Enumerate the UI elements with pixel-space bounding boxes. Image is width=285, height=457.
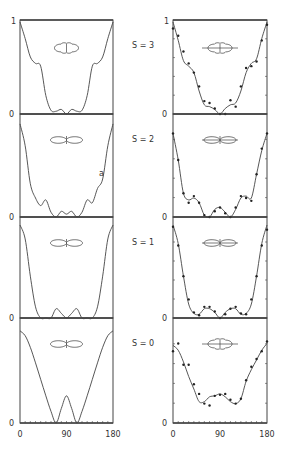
data-point [172, 27, 174, 29]
data-point [193, 383, 195, 385]
data-point [219, 394, 221, 396]
data-point [214, 310, 216, 312]
data-point [172, 350, 174, 352]
data-point [234, 306, 236, 308]
data-point [266, 132, 268, 134]
data-point [255, 173, 257, 175]
y-tick-label: 0 [162, 419, 167, 428]
data-point [214, 107, 216, 109]
data-point [261, 39, 263, 41]
data-point [266, 340, 268, 342]
data-point [250, 200, 252, 202]
data-point [255, 358, 257, 360]
data-point [261, 147, 263, 149]
data-point [182, 192, 184, 194]
data-point [203, 100, 205, 102]
data-point [177, 159, 179, 161]
y-tick-label: 0 [9, 110, 14, 119]
data-point [224, 393, 226, 395]
panel-label: S = 0 [132, 339, 154, 348]
data-point [261, 244, 263, 246]
data-point [193, 311, 195, 313]
data-point [234, 206, 236, 208]
panel-frame [173, 217, 267, 318]
panel-frame [173, 318, 267, 423]
panel-label: S = 1 [132, 238, 154, 247]
data-point [182, 275, 184, 277]
data-point [182, 50, 184, 52]
panel-frame [20, 318, 113, 423]
data-point [214, 395, 216, 397]
data-point [250, 298, 252, 300]
y-tick-label: 0 [162, 314, 167, 323]
data-point [203, 402, 205, 404]
data-point [208, 306, 210, 308]
data-point [177, 342, 179, 344]
y-tick-label: 0 [9, 314, 14, 323]
data-point [250, 366, 252, 368]
data-point [172, 132, 174, 134]
data-point [229, 399, 231, 401]
data-point [187, 298, 189, 300]
panel-frame [173, 114, 267, 217]
data-point [266, 24, 268, 26]
data-point [187, 364, 189, 366]
data-point [208, 102, 210, 104]
data-point [240, 398, 242, 400]
data-point [224, 313, 226, 315]
figure: 01S = 30S = 2a0S = 10090180S = 001000090… [0, 0, 285, 457]
data-curve [173, 133, 267, 217]
data-point [245, 67, 247, 69]
data-point [266, 228, 268, 230]
y-tick-label: 1 [11, 17, 16, 26]
data-point [193, 71, 195, 73]
data-point [245, 313, 247, 315]
y-tick-label: 0 [162, 213, 167, 222]
data-point [234, 105, 236, 107]
data-point [198, 393, 200, 395]
x-tick-label: 180 [259, 430, 274, 439]
data-point [255, 60, 257, 62]
data-point [229, 308, 231, 310]
panel-frame [20, 20, 113, 114]
data-point [224, 212, 226, 214]
data-curve [20, 22, 113, 114]
x-tick-label: 90 [61, 430, 71, 439]
data-point [193, 195, 195, 197]
data-point [208, 404, 210, 406]
data-point [245, 197, 247, 199]
x-tick-label: 0 [17, 430, 22, 439]
data-point [214, 210, 216, 212]
x-tick-label: 180 [105, 430, 120, 439]
data-point [250, 65, 252, 67]
data-curve [173, 22, 267, 114]
panel-label: S = 3 [132, 41, 154, 50]
data-point [198, 202, 200, 204]
x-tick-label: 90 [215, 430, 225, 439]
data-point [240, 85, 242, 87]
data-point [187, 62, 189, 64]
x-tick-label: 0 [170, 430, 175, 439]
data-point [172, 226, 174, 228]
panel-label: S = 2 [132, 135, 154, 144]
data-curve [173, 225, 267, 318]
data-point [182, 364, 184, 366]
data-point [240, 312, 242, 314]
y-tick-label: 1 [164, 17, 169, 26]
data-point [219, 206, 221, 208]
data-point [177, 35, 179, 37]
y-tick-label: 0 [9, 213, 14, 222]
data-point [203, 214, 205, 216]
data-point [234, 402, 236, 404]
data-point [203, 306, 205, 308]
y-tick-label: 0 [162, 110, 167, 119]
panel-frame [173, 20, 267, 114]
data-point [187, 202, 189, 204]
data-point [198, 314, 200, 316]
data-point [229, 99, 231, 101]
y-tick-label: 0 [9, 419, 14, 428]
data-point [261, 350, 263, 352]
annotation: a [99, 169, 104, 178]
data-point [198, 85, 200, 87]
panel-frame [20, 217, 113, 318]
